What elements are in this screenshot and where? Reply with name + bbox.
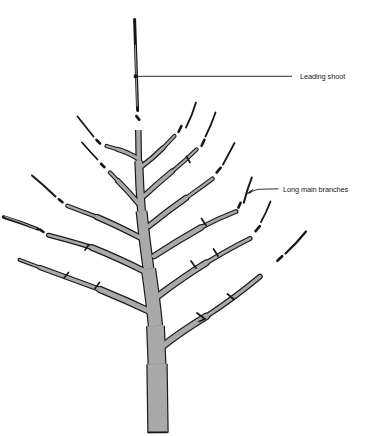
cut-mark	[40, 230, 44, 232]
cut-mark	[256, 226, 260, 231]
tree-outline-layer	[4, 130, 261, 433]
pruned-tip	[78, 117, 94, 137]
leader-junction-dot	[134, 75, 137, 78]
leading-shoot-label: Leading shoot	[300, 72, 345, 81]
cut-mark	[97, 140, 101, 144]
pruned-tip	[261, 202, 271, 223]
leading-shoot-callout: Leading shoot	[134, 72, 345, 81]
pruned-tip	[286, 232, 307, 254]
pruned-tip	[82, 143, 98, 160]
cut-mark	[277, 256, 282, 261]
pruned-tips	[32, 103, 306, 254]
cut-mark	[101, 164, 105, 167]
long-main-branches-callout: Long main branches	[246, 185, 348, 195]
pruned-tip	[186, 103, 196, 128]
trunk-fill	[138, 130, 158, 432]
cut-mark	[59, 199, 63, 202]
tree-fill-layer	[5, 130, 260, 432]
pruned-tip-fill-far-left	[5, 217, 36, 229]
leading-shoot	[135, 20, 138, 111]
pruned-tip	[32, 176, 56, 197]
long-main-branches-label: Long main branches	[283, 185, 349, 194]
pruned-tip-labeled	[244, 178, 252, 203]
cut-mark	[179, 126, 182, 132]
cut-mark-leader	[136, 116, 139, 119]
cut-mark	[217, 168, 221, 173]
pruned-tip	[223, 143, 235, 165]
tree-illustration: Leading shoot Long main branches	[0, 0, 370, 436]
cut-mark	[238, 203, 240, 208]
pruned-tip	[206, 113, 216, 137]
ink-detail-layer	[32, 20, 306, 433]
pruning-diagram: Leading shoot Long main branches	[0, 0, 370, 436]
cut-mark	[202, 140, 205, 146]
